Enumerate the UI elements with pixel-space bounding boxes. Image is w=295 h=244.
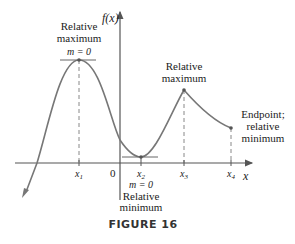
point-endpoint: [229, 126, 233, 130]
annotation-min-slope: m = 0: [129, 179, 153, 190]
tick-label-x3: x3: [179, 168, 188, 181]
origin-label: 0: [110, 167, 116, 179]
figure-diagram: f(x) x 0 x1 x2 x3 x4 Relative maximum m …: [0, 0, 295, 244]
annotation-max2-line2: maximum: [162, 72, 207, 84]
tick-label-x1: x1: [74, 168, 83, 181]
annotation-max1-line2: maximum: [57, 32, 102, 44]
annotation-end-line2: relative: [247, 120, 280, 132]
annotation-max2-line1: Relative: [166, 60, 203, 72]
annotation-min-line2: minimum: [120, 201, 163, 213]
y-axis-label: f(x): [102, 11, 119, 25]
x-axis-label: x: [242, 169, 249, 183]
annotation-max1-slope: m = 0: [67, 46, 91, 57]
figure-caption: FIGURE 16: [108, 218, 177, 231]
point-max2: [182, 88, 186, 92]
tick-label-x4: x4: [226, 168, 235, 181]
annotation-end-line3: minimum: [242, 132, 285, 144]
point-max1: [77, 58, 81, 62]
annotation-end-line1: Endpoint;: [241, 108, 284, 120]
point-min: [139, 155, 143, 159]
curve-arrow-icon: [22, 188, 29, 198]
annotation-max1-line1: Relative: [61, 20, 98, 32]
